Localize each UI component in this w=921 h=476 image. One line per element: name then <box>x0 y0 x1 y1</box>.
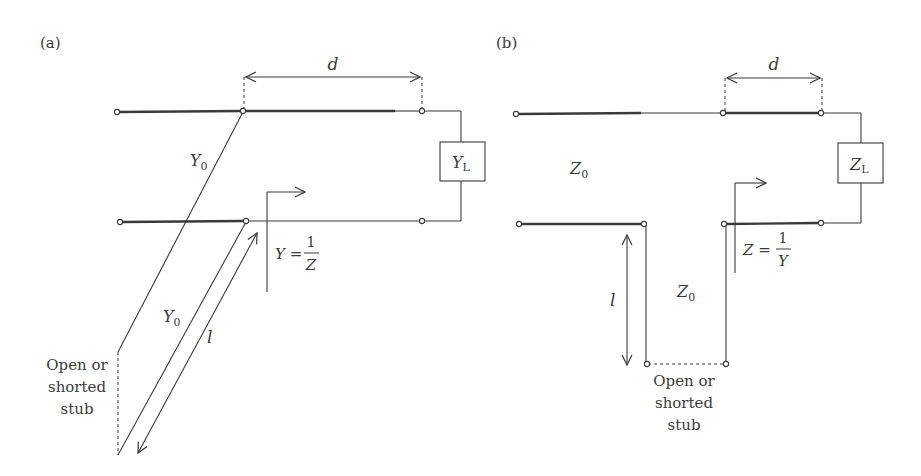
z0-label-stub: Z0 <box>676 282 695 304</box>
admittance-equation: Y = 1 Z <box>275 234 319 274</box>
impedance-equation: Z = 1 Y <box>742 230 791 270</box>
terminal-nodes-b <box>513 110 823 366</box>
svg-text:Z: Z <box>305 256 317 274</box>
stub-length-label: l <box>207 327 212 347</box>
panel-a: (a) d YL <box>40 34 485 455</box>
svg-text:1: 1 <box>779 230 788 246</box>
distance-d-label: d <box>328 54 339 74</box>
load-box-zl: ZL <box>823 143 883 223</box>
distance-d-arrow <box>244 77 422 111</box>
svg-text:stub: stub <box>668 416 701 434</box>
main-line-top-b <box>517 113 861 143</box>
y0-label-stub: Y0 <box>163 307 181 329</box>
reference-plane-arrow-b <box>735 183 766 273</box>
svg-text:shorted: shorted <box>48 378 106 396</box>
y0-label-upper: Y0 <box>190 151 208 173</box>
panel-b-label: (b) <box>496 34 517 52</box>
z0-label-main: Z0 <box>569 159 588 181</box>
load-yl-label: YL <box>452 153 471 174</box>
svg-text:Open or: Open or <box>46 356 108 374</box>
svg-text:stub: stub <box>61 400 94 418</box>
stub-length-arrow <box>138 233 257 453</box>
svg-text:shorted: shorted <box>655 394 713 412</box>
stub-a <box>118 112 246 455</box>
stub-caption-a: Open or shorted stub <box>46 356 108 418</box>
panel-a-label: (a) <box>40 34 61 52</box>
load-zl-label: ZL <box>849 155 869 176</box>
main-line-bottom <box>121 181 461 222</box>
distance-d-label-b: d <box>769 54 780 74</box>
svg-text:Y: Y <box>778 252 790 270</box>
svg-text:Open or: Open or <box>653 372 715 390</box>
svg-text:1: 1 <box>307 234 316 250</box>
reference-plane-arrow <box>267 192 305 292</box>
load-box-yl: YL <box>440 142 485 181</box>
main-line-bottom-b <box>520 223 819 224</box>
panel-b: (b) d ZL <box>496 34 883 434</box>
stub-caption-b: Open or shorted stub <box>653 372 715 434</box>
svg-text:Z =: Z = <box>742 241 771 259</box>
main-line-top <box>118 111 461 142</box>
svg-text:Y =: Y = <box>275 245 302 263</box>
stub-matching-figure: (a) d YL <box>0 0 921 476</box>
distance-d-arrow-b <box>725 78 822 113</box>
stub-length-label-b: l <box>610 290 615 310</box>
terminal-nodes-a <box>114 108 424 224</box>
